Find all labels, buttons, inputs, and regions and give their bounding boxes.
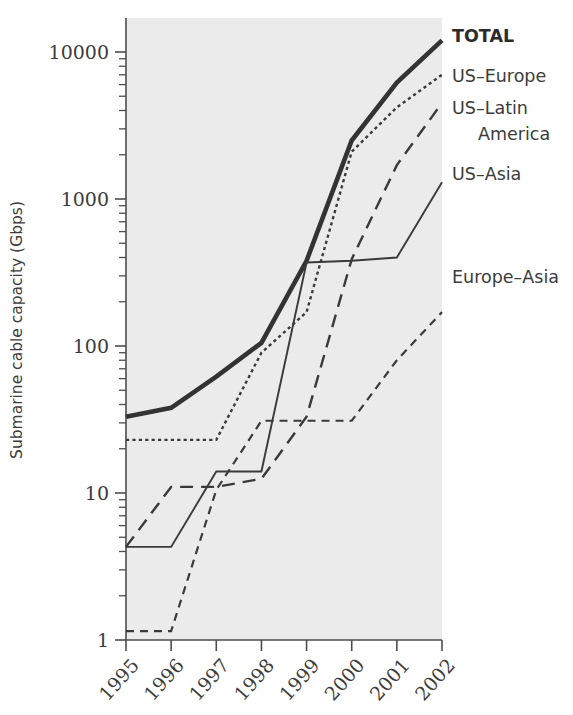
legend-label-us-asia: US–Asia [452,164,521,184]
legend-label-us-latin-america: America [478,124,550,144]
x-axis-tick-labels: 19951996199719981999200020012002 [94,654,459,705]
chart-svg: 110100100010000 199519961997199819992000… [0,0,573,715]
chart-figure: 110100100010000 199519961997199819992000… [0,0,573,715]
x-tick-label: 1999 [275,654,324,705]
plot-area-background [126,18,442,640]
legend-label-us-latin-america: US–Latin [452,98,528,118]
y-tick-label: 1000 [61,188,109,210]
x-tick-label: 1997 [185,654,234,705]
x-tick-label: 2000 [320,654,369,705]
legend-label-us-europe: US–Europe [452,66,546,86]
y-tick-label: 1 [97,629,109,651]
x-tick-label: 1998 [230,654,279,705]
y-tick-label: 10 [85,482,109,504]
x-tick-label: 2001 [365,654,414,705]
chart-legend: TOTALUS–EuropeUS–LatinAmericaUS–AsiaEuro… [452,26,559,287]
x-tick-label: 1996 [139,654,188,705]
x-axis-ticks [126,640,442,651]
legend-label-europe-asia: Europe–Asia [452,267,559,287]
y-axis-ticks [115,52,126,640]
legend-label-total: TOTAL [452,26,514,46]
x-tick-label: 2002 [410,654,459,705]
y-axis-tick-labels: 110100100010000 [49,41,109,651]
y-axis-title: Submarine cable capacity (Gbps) [8,201,26,459]
y-tick-label: 10000 [49,41,109,63]
x-tick-label: 1995 [94,654,143,705]
y-tick-label: 100 [73,335,109,357]
